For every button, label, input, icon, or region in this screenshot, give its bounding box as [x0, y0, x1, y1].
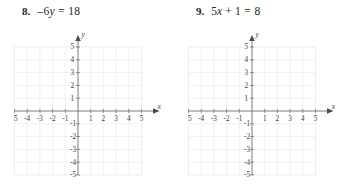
equation-right-side: 18 — [68, 5, 80, 17]
y-tick-label: 3 — [70, 69, 74, 77]
coordinate-grid-9: -5 -4 -3 -2 -1 1 2 3 4 5 1 2 3 4 5 -1 — [188, 30, 336, 182]
y-tick-label: 1 — [244, 95, 248, 103]
x-axis-label: x — [157, 103, 162, 111]
x-tick-label: 5 — [314, 115, 318, 123]
x-axis-negative-labels: -5 -4 -3 -2 -1 — [14, 115, 69, 123]
equation-right-side: 8 — [254, 5, 260, 17]
y-tick-label: -3 — [244, 146, 250, 154]
x-tick-label: 2 — [276, 115, 280, 123]
y-axis-positive-labels: 1 2 3 4 5 — [70, 43, 74, 102]
x-tick-label: -1 — [62, 115, 68, 123]
y-tick-label: 3 — [244, 69, 248, 77]
exercise-9: 9. 5x+1=8 — [174, 0, 348, 186]
equation-lead-minus: – — [37, 5, 43, 17]
equation-equals-sign: = — [244, 5, 251, 17]
y-tick-label: 5 — [70, 43, 74, 51]
x-tick-label: 1 — [263, 115, 267, 123]
x-tick-label: -4 — [24, 115, 30, 123]
y-tick-label: -5 — [70, 171, 76, 179]
equation-operator: + — [225, 5, 232, 17]
x-axis-label: x — [331, 103, 336, 111]
y-axis-arrowhead — [249, 35, 255, 41]
y-tick-label: -2 — [70, 133, 76, 141]
y-axis-label: y — [80, 31, 85, 39]
x-tick-label: 3 — [114, 115, 118, 123]
x-tick-label: -2 — [224, 115, 230, 123]
problem-9-equation: 5x+1=8 — [211, 6, 260, 18]
y-axis-positive-labels: 1 2 3 4 5 — [244, 43, 248, 102]
y-tick-label: 2 — [244, 82, 248, 90]
x-tick-label: 4 — [301, 115, 305, 123]
y-axis-negative-labels: -1 -2 -3 -4 -5 — [244, 120, 250, 179]
y-tick-label: -5 — [244, 171, 250, 179]
y-tick-label: -3 — [70, 146, 76, 154]
y-axis-negative-labels: -1 -2 -3 -4 -5 — [70, 120, 76, 179]
x-tick-label: 1 — [89, 115, 93, 123]
equation-variable: x — [217, 5, 222, 17]
y-tick-label: -4 — [70, 159, 76, 167]
y-tick-label: 1 — [70, 95, 74, 103]
x-axis-negative-labels: -5 -4 -3 -2 -1 — [188, 115, 243, 123]
x-tick-label: -5 — [188, 115, 192, 123]
problem-9-prompt: 9. 5x+1=8 — [196, 6, 260, 24]
y-tick-label: 2 — [70, 82, 74, 90]
x-axis-positive-labels: 1 2 3 4 5 — [89, 115, 144, 123]
x-tick-label: -5 — [14, 115, 18, 123]
problem-8-number: 8. — [22, 6, 30, 17]
equation-constant: 1 — [235, 5, 241, 17]
y-tick-label: -1 — [244, 120, 250, 128]
y-axis-arrowhead — [75, 35, 81, 41]
x-tick-label: 4 — [127, 115, 131, 123]
y-tick-label: -2 — [244, 133, 250, 141]
problem-8-equation: –6y=18 — [37, 6, 80, 18]
y-tick-label: -4 — [244, 159, 250, 167]
exercise-8: 8. –6y=18 — [0, 0, 174, 186]
x-tick-label: 2 — [102, 115, 106, 123]
x-tick-label: -1 — [236, 115, 242, 123]
x-tick-label: -4 — [198, 115, 204, 123]
x-tick-label: -3 — [37, 115, 43, 123]
y-axis-label: y — [254, 31, 259, 39]
y-tick-label: 4 — [70, 56, 74, 64]
x-tick-label: 5 — [140, 115, 144, 123]
y-tick-label: -1 — [70, 120, 76, 128]
y-tick-label: 5 — [244, 43, 248, 51]
x-tick-label: -3 — [211, 115, 217, 123]
x-tick-label: 3 — [288, 115, 292, 123]
x-axis-positive-labels: 1 2 3 4 5 — [263, 115, 318, 123]
problem-8-prompt: 8. –6y=18 — [22, 6, 80, 24]
problem-9-number: 9. — [196, 6, 204, 17]
coordinate-grid-8: -5 -4 -3 -2 -1 1 2 3 4 5 1 2 3 4 5 — [14, 30, 162, 182]
y-tick-label: 4 — [244, 56, 248, 64]
equation-equals-sign: = — [58, 5, 65, 17]
equation-variable: y — [49, 5, 54, 17]
x-tick-label: -2 — [50, 115, 56, 123]
